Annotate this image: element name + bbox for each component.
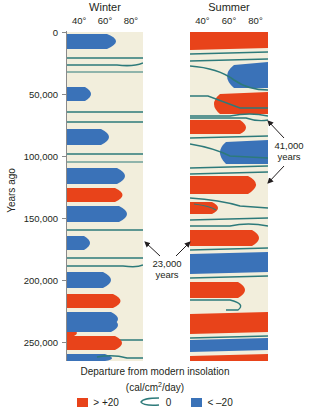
panel-title-summer: Summer — [190, 1, 268, 13]
annotation-41000-line1: 41,000 — [268, 140, 310, 151]
latitude-axis-summer: 40° 60° 80° — [190, 15, 268, 28]
insolation-figure: Winter Summer 40° 60° 80° 40° 60° 80° Ye… — [0, 0, 310, 412]
legend-item-positive: > +20 — [77, 397, 119, 408]
y-label-200000: 200,000 — [24, 275, 58, 286]
figure-legend: > +20 0 < –20 — [0, 394, 310, 410]
lat-tick-summer-40: 40° — [195, 15, 209, 26]
latitude-axis-winter: 40° 60° 80° — [67, 15, 143, 28]
legend-zero-contour-icon — [139, 397, 161, 407]
leader-41000-lower — [268, 166, 284, 183]
lat-tick-summer-60: 60° — [222, 15, 236, 26]
plot-panel-summer — [190, 32, 268, 361]
lat-tick-winter-60: 60° — [98, 15, 112, 26]
caption-line-2: (cal/cm2/day) — [0, 378, 310, 394]
figure-caption: Departure from modern insolation (cal/cm… — [0, 365, 310, 394]
caption-line-1: Departure from modern insolation — [0, 365, 310, 378]
leader-41000-upper — [268, 121, 284, 138]
annotation-23000-line2: years — [146, 269, 188, 280]
y-label-50000: 50,000 — [29, 89, 58, 100]
y-label-250000: 250,000 — [24, 337, 58, 348]
legend-label-zero: 0 — [166, 397, 172, 408]
panel-title-winter: Winter — [67, 1, 143, 13]
lat-tick-winter-40: 40° — [72, 15, 86, 26]
summer-anomaly-bands — [190, 32, 268, 361]
y-label-150000: 150,000 — [24, 213, 58, 224]
legend-label-positive: > +20 — [93, 397, 119, 408]
winter-contour-plot — [67, 32, 143, 361]
legend-label-negative: < –20 — [207, 397, 232, 408]
y-label-100000: 100,000 — [24, 151, 58, 162]
annotation-23000-line1: 23,000 — [146, 258, 188, 269]
y-axis-title: Years ago — [6, 156, 17, 226]
annotation-41000-line2: years — [268, 151, 310, 162]
lat-tick-summer-80: 80° — [248, 15, 262, 26]
legend-item-negative: < –20 — [191, 397, 232, 408]
legend-item-zero: 0 — [139, 397, 172, 408]
legend-swatch-positive-icon — [77, 398, 88, 407]
winter-anomaly-bands — [67, 34, 143, 340]
summer-contour-plot — [190, 32, 268, 361]
y-label-0: 0 — [53, 27, 58, 38]
plot-panel-winter — [67, 32, 143, 361]
lat-tick-winter-80: 80° — [124, 15, 138, 26]
leader-23000-right — [176, 242, 190, 256]
caption-units-pre: (cal/cm — [126, 382, 158, 393]
annotation-23000-years: 23,000 years — [146, 258, 188, 280]
annotation-41000-years: 41,000 years — [268, 140, 310, 162]
legend-swatch-negative-icon — [191, 398, 202, 407]
leader-23000-left — [145, 242, 160, 256]
caption-units-post: /day) — [162, 382, 184, 393]
